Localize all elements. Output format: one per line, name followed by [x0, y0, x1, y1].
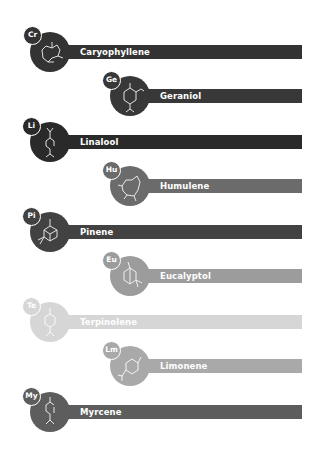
terpene-name: Linalool	[80, 135, 118, 149]
terpene-row-myrcene: Myrcene My	[0, 390, 317, 434]
symbol-badge: Cr	[23, 26, 42, 45]
terpene-bar: Limonene	[140, 359, 302, 373]
terpene-name: Limonene	[160, 359, 207, 373]
terpene-row-eucalyptol: Eucalyptol Eu	[0, 254, 317, 298]
terpene-name: Eucalyptol	[160, 269, 211, 283]
terpene-name: Myrcene	[80, 405, 122, 419]
symbol-badge: My	[22, 387, 41, 406]
terpene-row-geraniol: Geraniol Ge	[0, 74, 317, 118]
terpene-bar: Pinene	[60, 225, 302, 239]
symbol-badge: Eu	[102, 251, 121, 270]
terpene-bar: Humulene	[140, 179, 302, 193]
symbol-badge: Pi	[22, 207, 41, 226]
terpene-name: Humulene	[160, 179, 209, 193]
terpene-bar: Terpinolene	[60, 315, 302, 329]
terpene-name: Caryophyllene	[80, 45, 150, 59]
terpene-row-linalool: Linalool Li	[0, 120, 317, 164]
symbol-badge: Te	[22, 297, 41, 316]
terpene-row-humulene: Humulene Hu	[0, 164, 317, 208]
terpene-row-limonene: Limonene Lm	[0, 344, 317, 388]
symbol-badge: Hu	[102, 161, 121, 180]
terpene-name: Pinene	[80, 225, 113, 239]
terpene-bar: Eucalyptol	[140, 269, 302, 283]
symbol-badge: Ge	[102, 71, 121, 90]
terpene-name: Geraniol	[160, 89, 201, 103]
terpene-row-caryophyllene: Caryophyllene Cr	[0, 30, 317, 74]
terpene-bar: Caryophyllene	[60, 45, 302, 59]
symbol-badge: Li	[22, 117, 41, 136]
terpene-bar: Linalool	[60, 135, 302, 149]
terpene-bar: Geraniol	[140, 89, 302, 103]
terpene-bar: Myrcene	[60, 405, 302, 419]
terpene-row-pinene: Pinene Pi	[0, 210, 317, 254]
symbol-badge: Lm	[102, 341, 121, 360]
terpene-row-terpinolene: Terpinolene Te	[0, 300, 317, 344]
terpene-name: Terpinolene	[80, 315, 137, 329]
